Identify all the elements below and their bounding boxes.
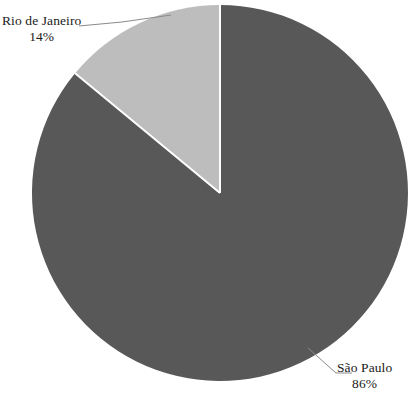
pie-label-sao-paulo-value: 86% [337, 376, 392, 392]
pie-label-rio-de-janeiro-name: Rio de Janeiro [2, 13, 81, 29]
pie-chart: Rio de Janeiro 14% São Paulo 86% [0, 0, 409, 413]
pie-chart-canvas [0, 0, 409, 413]
pie-label-rio-de-janeiro: Rio de Janeiro 14% [2, 13, 81, 45]
pie-label-sao-paulo-name: São Paulo [337, 360, 392, 376]
pie-label-sao-paulo: São Paulo 86% [337, 360, 392, 392]
pie-label-rio-de-janeiro-value: 14% [2, 29, 81, 45]
